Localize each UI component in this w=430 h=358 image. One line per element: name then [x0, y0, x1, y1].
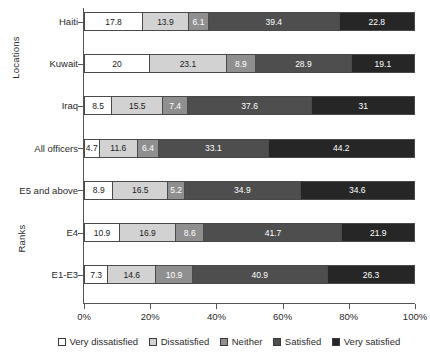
- bar-segment: 41.7: [204, 223, 342, 242]
- bar-segment: 15.5: [112, 96, 163, 115]
- category-label-e1-e3: E1-E3: [0, 265, 78, 284]
- bar-segment-value-label: 5.2: [170, 185, 182, 195]
- bar-segment: 5.2: [168, 181, 185, 200]
- x-axis-tick: [150, 304, 151, 309]
- bar-segment-value-label: 22.8: [368, 17, 385, 27]
- legend-swatch-icon: [149, 338, 157, 346]
- legend-label: Satisfied: [285, 336, 321, 347]
- legend-label: Very dissatisfied: [70, 336, 139, 347]
- x-axis-tick-label: 0%: [64, 311, 104, 322]
- bar-segment: 11.6: [100, 139, 138, 158]
- x-axis-tick-label: 60%: [263, 311, 303, 322]
- bar-segment-value-label: 7.3: [90, 270, 102, 280]
- bar-segment: 28.9: [256, 54, 352, 73]
- bar-segment: 31: [312, 96, 415, 115]
- bar-segment: 17.8: [84, 12, 143, 31]
- bar-segment-value-label: 11.6: [110, 143, 126, 153]
- bar-segment: 37.6: [188, 96, 312, 115]
- x-axis-tick: [216, 304, 217, 309]
- legend-swatch-icon: [332, 338, 340, 346]
- x-axis-tick-label: 100%: [395, 311, 430, 322]
- category-label-all-officers: All officers: [0, 139, 78, 158]
- x-axis-tick-label: 40%: [196, 311, 236, 322]
- bar-segment: 20: [84, 54, 150, 73]
- bar-segment: 4.7: [84, 139, 100, 158]
- legend-item: Neither: [220, 336, 262, 347]
- bar-segment-value-label: 33.1: [205, 143, 222, 153]
- bar-segment-value-label: 8.9: [93, 185, 105, 195]
- bar-segment: 6.4: [138, 139, 159, 158]
- bar-segment: 40.9: [193, 265, 328, 284]
- bar-segment: 14.6: [108, 265, 156, 284]
- category-label-e4: E4: [0, 223, 78, 242]
- legend-item: Very dissatisfied: [58, 336, 138, 347]
- x-axis-tick-label: 20%: [130, 311, 170, 322]
- legend-label: Neither: [232, 336, 263, 347]
- bar-row: 8.515.57.437.631: [84, 96, 415, 115]
- bar-segment-value-label: 14.6: [124, 270, 141, 280]
- bar-segment-value-label: 16.9: [139, 228, 156, 238]
- bar-segment: 34.9: [185, 181, 300, 200]
- bar-segment: 16.5: [113, 181, 168, 200]
- bar-segment: 8.6: [176, 223, 204, 242]
- bar-segment: 16.9: [120, 223, 176, 242]
- bar-segment-value-label: 44.2: [333, 143, 350, 153]
- bar-segment: 8.9: [84, 181, 113, 200]
- bar-row: 8.916.55.234.934.6: [84, 181, 415, 200]
- chart-legend: Very dissatisfiedDissatisfiedNeitherSati…: [58, 336, 400, 347]
- bar-segment: 26.3: [328, 265, 415, 284]
- y-axis-tick: [78, 64, 83, 65]
- y-axis-tick: [78, 275, 83, 276]
- legend-label: Dissatisfied: [161, 336, 210, 347]
- bar-segment-value-label: 8.6: [184, 228, 196, 238]
- bar-segment: 21.9: [342, 223, 414, 242]
- bar-segment: 10.9: [156, 265, 192, 284]
- bar-segment-value-label: 10.9: [94, 228, 111, 238]
- bar-segment: 10.9: [84, 223, 120, 242]
- bar-segment: 8.5: [84, 96, 112, 115]
- legend-item: Satisfied: [273, 336, 321, 347]
- bar-segment-value-label: 17.8: [105, 17, 122, 27]
- bar-segment: 19.1: [352, 54, 415, 73]
- bar-segment: 44.2: [269, 139, 415, 158]
- bar-segment-value-label: 8.9: [235, 59, 247, 69]
- bar-segment: 6.1: [189, 12, 209, 31]
- bar-segment-value-label: 31: [358, 101, 367, 111]
- bar-row: 17.813.96.139.422.8: [84, 12, 415, 31]
- bar-segment: 7.3: [84, 265, 108, 284]
- bar-segment-value-label: 8.5: [92, 101, 104, 111]
- bar-segment-value-label: 6.4: [142, 143, 154, 153]
- bar-segment: 7.4: [163, 96, 187, 115]
- bar-row: 10.916.98.641.721.9: [84, 223, 415, 242]
- bar-segment-value-label: 23.1: [180, 59, 197, 69]
- bar-segment-value-label: 37.6: [241, 101, 258, 111]
- legend-swatch-icon: [58, 338, 66, 346]
- bar-segment-value-label: 39.4: [266, 17, 283, 27]
- bar-segment-value-label: 41.7: [265, 228, 282, 238]
- x-axis-tick: [415, 304, 416, 309]
- bar-segment: 23.1: [150, 54, 226, 73]
- bar-segment-value-label: 28.9: [295, 59, 312, 69]
- x-axis-tick: [84, 304, 85, 309]
- x-axis-tick-label: 80%: [329, 311, 369, 322]
- y-axis-tick: [78, 148, 83, 149]
- x-axis-tick: [283, 304, 284, 309]
- bar-row: 2023.18.928.919.1: [84, 54, 415, 73]
- legend-label: Very satisfied: [344, 336, 401, 347]
- bar-segment: 22.8: [340, 12, 415, 31]
- bar-segment-value-label: 10.9: [166, 270, 183, 280]
- bar-segment-value-label: 34.6: [349, 185, 366, 195]
- category-label-haiti: Haiti: [0, 12, 78, 31]
- bar-segment: 8.9: [227, 54, 256, 73]
- bar-segment-value-label: 20: [112, 59, 121, 69]
- bar-segment-value-label: 4.7: [86, 143, 98, 153]
- bar-segment: 13.9: [143, 12, 189, 31]
- category-label-e5-and-above: E5 and above: [0, 181, 78, 200]
- legend-item: Very satisfied: [332, 336, 400, 347]
- bar-row: 7.314.610.940.926.3: [84, 265, 415, 284]
- y-axis-tick: [78, 190, 83, 191]
- bar-segment-value-label: 13.9: [157, 17, 174, 27]
- x-axis-line: [83, 303, 415, 304]
- bar-segment-value-label: 16.5: [132, 185, 149, 195]
- bar-segment-value-label: 34.9: [234, 185, 251, 195]
